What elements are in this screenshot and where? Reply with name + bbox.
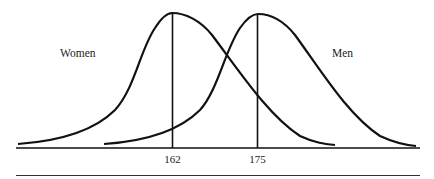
distribution-diagram: Women Men 162 175	[0, 0, 434, 179]
women-label: Women	[60, 47, 96, 59]
women-distribution-curve	[18, 13, 335, 145]
tick-label-162: 162	[164, 153, 181, 165]
tick-label-175: 175	[249, 153, 266, 165]
men-label: Men	[332, 47, 353, 59]
